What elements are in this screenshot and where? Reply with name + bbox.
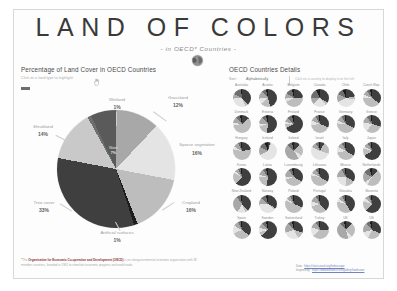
country-name: Estonia	[262, 110, 273, 114]
country-pie-chart[interactable]	[233, 221, 251, 239]
country-cell[interactable]: Belgium	[281, 83, 306, 107]
country-pie-chart[interactable]	[337, 221, 355, 239]
country-pie-chart[interactable]	[363, 142, 381, 160]
country-name: Norway	[262, 189, 273, 193]
country-pie-chart[interactable]	[233, 115, 251, 133]
country-pie-chart[interactable]	[311, 89, 329, 107]
country-cell[interactable]: Canada	[307, 83, 332, 107]
country-cell[interactable]: Iceland	[255, 136, 280, 160]
sources-block: Data : https://stats.oecd.org/Index.aspx…	[296, 264, 384, 273]
country-pie-chart[interactable]	[337, 168, 355, 186]
country-cell[interactable]: Germany	[333, 110, 358, 134]
country-cell[interactable]: Lithuania	[307, 163, 332, 187]
country-name: France	[314, 110, 324, 114]
country-name: Slovenia	[365, 189, 378, 193]
country-cell[interactable]: Sweden	[255, 216, 280, 240]
country-name: New Zealand	[232, 189, 251, 193]
country-name: Denmark	[235, 110, 248, 114]
country-cell[interactable]: Slovakia	[333, 189, 358, 213]
country-name: Luxembourg	[284, 163, 302, 167]
country-pie-chart[interactable]	[259, 221, 277, 239]
country-pie-chart[interactable]	[311, 168, 329, 186]
country-pie-chart[interactable]	[363, 195, 381, 213]
country-name: Canada	[314, 83, 326, 87]
country-pie-chart[interactable]	[285, 168, 303, 186]
country-cell[interactable]: Italy	[333, 136, 358, 160]
pie-label-artificial-surfaces: Artificial surfaces 1%	[81, 230, 153, 245]
source-key: Inspired by :	[296, 268, 312, 272]
country-cell[interactable]: Poland	[281, 189, 306, 213]
country-cell[interactable]: Greece	[359, 110, 384, 134]
country-cell[interactable]: Austria	[255, 83, 280, 107]
country-cell[interactable]: Luxembourg	[281, 163, 306, 187]
country-pie-chart[interactable]	[337, 115, 355, 133]
country-cell[interactable]: Turkey	[307, 216, 332, 240]
country-pie-chart[interactable]	[311, 142, 329, 160]
country-pie-chart[interactable]	[233, 195, 251, 213]
globe-icon	[190, 53, 205, 66]
country-pie-chart[interactable]	[259, 89, 277, 107]
pie-label-shrubland: Shrubland 14%	[21, 124, 65, 139]
country-pie-chart[interactable]	[363, 221, 381, 239]
country-cell[interactable]: Denmark	[229, 110, 254, 134]
land-cover-pie-chart[interactable]	[57, 110, 175, 228]
country-cell[interactable]: US	[359, 216, 384, 240]
country-cell[interactable]: Spain	[229, 216, 254, 240]
country-pie-chart[interactable]	[337, 89, 355, 107]
country-pie-chart[interactable]	[285, 115, 303, 133]
country-pie-chart[interactable]	[311, 221, 329, 239]
country-pie-chart[interactable]	[233, 89, 251, 107]
country-cell[interactable]: Estonia	[255, 110, 280, 134]
country-cell[interactable]: Czech Rep.	[359, 83, 384, 107]
country-name: Mexico	[340, 163, 350, 167]
country-cell[interactable]: Korea	[229, 163, 254, 187]
pie-inner-label-water: Water 7%	[109, 146, 118, 156]
sort-select[interactable]: Alphabetically	[246, 77, 268, 81]
country-pie-chart[interactable]	[363, 89, 381, 107]
country-cell[interactable]: Israel	[307, 136, 332, 160]
country-name: Ireland	[288, 136, 298, 140]
country-pie-chart[interactable]	[285, 89, 303, 107]
country-cell[interactable]: Mexico	[333, 163, 358, 187]
country-cell[interactable]: Finland	[281, 110, 306, 134]
country-cell[interactable]: Switzerland	[281, 216, 306, 240]
country-pie-chart[interactable]	[285, 142, 303, 160]
country-pie-chart[interactable]	[259, 115, 277, 133]
country-cell[interactable]: Japan	[359, 136, 384, 160]
country-cell[interactable]: Hungary	[229, 136, 254, 160]
country-pie-chart[interactable]	[285, 195, 303, 213]
country-pie-chart[interactable]	[363, 168, 381, 186]
country-cell[interactable]: New Zealand	[229, 189, 254, 213]
footnote: *The Organisation for Economic Co-operat…	[21, 258, 201, 267]
pie-label-wetland: Wetland 1%	[94, 97, 140, 112]
country-pie-chart[interactable]	[311, 195, 329, 213]
country-pie-chart[interactable]	[259, 142, 277, 160]
country-cell[interactable]: Slovenia	[359, 189, 384, 213]
country-cell[interactable]: Portugal	[307, 189, 332, 213]
country-cell[interactable]: Latvia	[255, 163, 280, 187]
country-pie-chart[interactable]	[233, 142, 251, 160]
country-cell[interactable]: Australia	[229, 83, 254, 107]
leader-line-wetland	[116, 112, 117, 126]
country-cell[interactable]: Netherlands	[359, 163, 384, 187]
country-pie-chart[interactable]	[233, 168, 251, 186]
country-pie-chart[interactable]	[259, 195, 277, 213]
country-cell[interactable]: France	[307, 110, 332, 134]
country-pie-chart[interactable]	[285, 221, 303, 239]
country-cell[interactable]: Norway	[255, 189, 280, 213]
legend-swatch[interactable]	[21, 87, 30, 90]
country-cell[interactable]: Chile	[333, 83, 358, 107]
source-link[interactable]: https://stats.oecd.org/Index.aspx	[304, 264, 344, 268]
country-cell[interactable]: UK	[333, 216, 358, 240]
country-pie-chart[interactable]	[337, 142, 355, 160]
country-pie-chart[interactable]	[337, 195, 355, 213]
source-link[interactable]: https://www.behance.net/gallery/landcove…	[312, 268, 364, 272]
country-pie-chart[interactable]	[363, 115, 381, 133]
land-cover-panel: Percentage of Land Cover in OECD Countri…	[21, 66, 217, 256]
country-name: Hungary	[235, 136, 247, 140]
country-pie-chart[interactable]	[259, 168, 277, 186]
country-name: Korea	[237, 163, 246, 167]
country-cell[interactable]: Ireland	[281, 136, 306, 160]
country-pie-chart[interactable]	[311, 115, 329, 133]
country-name: Lithuania	[313, 163, 326, 167]
